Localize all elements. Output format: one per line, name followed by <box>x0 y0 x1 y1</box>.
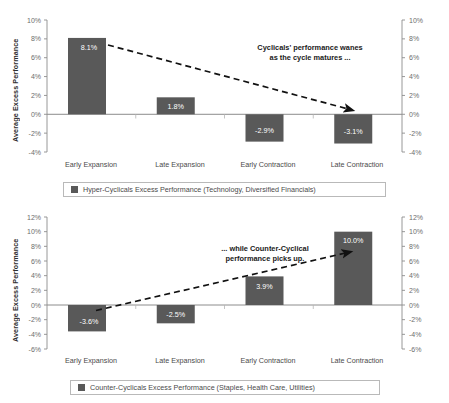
legend-top: Hyper-Cyclicals Excess Performance (Tech… <box>63 182 386 197</box>
svg-text:8%: 8% <box>409 243 419 250</box>
svg-text:4%: 4% <box>409 73 419 80</box>
category-ticks-top <box>136 114 314 118</box>
right-axis-spine-top <box>402 20 405 152</box>
figure-root: Average Excess Performance <box>0 0 449 403</box>
bar-label-2: -2.9% <box>255 126 274 135</box>
annotation-line-2: performance picks up. <box>226 254 305 263</box>
svg-text:-6%: -6% <box>409 346 421 353</box>
svg-text:12%: 12% <box>27 214 41 221</box>
svg-text:-2%: -2% <box>29 130 41 137</box>
bar-label-3: -3.1% <box>344 127 363 136</box>
plot-area-bottom: 12% 10% 8% 6% 4% 2% 0% -2% -4% -6% <box>0 200 449 378</box>
bar-label-3: 10.0% <box>343 236 364 245</box>
svg-text:0%: 0% <box>31 111 41 118</box>
svg-text:10%: 10% <box>27 17 41 24</box>
svg-text:-2%: -2% <box>409 130 421 137</box>
svg-text:0%: 0% <box>409 302 419 309</box>
left-tick-labels-top: 10% 8% 6% 4% 2% 0% -2% -4% <box>27 17 41 156</box>
left-tick-labels-bottom: 12% 10% 8% 6% 4% 2% 0% -2% -4% -6% <box>27 214 41 353</box>
svg-text:4%: 4% <box>31 73 41 80</box>
right-tick-labels-top: 10% 8% 6% 4% 2% 0% -2% -4% <box>409 17 423 156</box>
category-label-0: Early Expansion <box>65 160 117 169</box>
legend-swatch-icon-bottom <box>78 384 85 391</box>
bar-label-0: -3.6% <box>80 317 99 326</box>
category-label-3: Late Contraction <box>331 160 384 169</box>
chart-panel-counter-cyclicals: Average Excess Performance 12% 10% 8% 6%… <box>0 200 449 403</box>
svg-text:-4%: -4% <box>409 149 421 156</box>
svg-text:6%: 6% <box>31 54 41 61</box>
bar-label-0: 8.1% <box>81 43 98 52</box>
bar-label-1: 1.8% <box>168 102 185 111</box>
svg-text:2%: 2% <box>409 92 419 99</box>
svg-text:12%: 12% <box>409 214 423 221</box>
svg-text:6%: 6% <box>409 54 419 61</box>
svg-text:6%: 6% <box>409 258 419 265</box>
svg-text:-4%: -4% <box>409 331 421 338</box>
svg-text:10%: 10% <box>27 228 41 235</box>
svg-text:2%: 2% <box>409 287 419 294</box>
category-label-0: Early Expansion <box>65 356 117 365</box>
svg-text:-4%: -4% <box>29 331 41 338</box>
category-labels-bottom: Early Expansion Late Expansion Early Con… <box>65 356 383 365</box>
svg-text:-2%: -2% <box>29 316 41 323</box>
svg-text:8%: 8% <box>31 35 41 42</box>
left-axis-spine-bottom <box>44 217 47 349</box>
trend-arrow-bottom <box>96 252 350 311</box>
svg-text:10%: 10% <box>409 228 423 235</box>
plot-area-top: 10% 8% 6% 4% 2% 0% -2% -4% 10% <box>0 0 449 180</box>
legend-label-bottom: Counter-Cyclicals Excess Performance (St… <box>90 384 315 391</box>
svg-text:8%: 8% <box>409 35 419 42</box>
svg-text:-4%: -4% <box>29 149 41 156</box>
legend-label-top: Hyper-Cyclicals Excess Performance (Tech… <box>83 186 316 193</box>
right-axis-spine-bottom <box>402 217 405 349</box>
svg-text:-6%: -6% <box>29 346 41 353</box>
bar-series-bottom <box>68 232 372 332</box>
svg-text:-2%: -2% <box>409 316 421 323</box>
svg-text:4%: 4% <box>409 272 419 279</box>
svg-text:2%: 2% <box>31 287 41 294</box>
category-label-2: Early Contraction <box>240 160 295 169</box>
annotation-line-1: Cyclicals' performance wanes <box>257 43 362 52</box>
left-axis-spine-top <box>44 20 47 152</box>
bar-label-2: 3.9% <box>256 282 273 291</box>
annotation-top: Cyclicals' performance wanes as the cycl… <box>257 43 362 62</box>
svg-text:6%: 6% <box>31 258 41 265</box>
right-tick-labels-bottom: 12% 10% 8% 6% 4% 2% 0% -2% -4% -6% <box>409 214 423 353</box>
svg-text:8%: 8% <box>31 243 41 250</box>
annotation-line-2: as the cycle matures ... <box>270 53 351 62</box>
svg-text:0%: 0% <box>31 302 41 309</box>
annotation-line-1: ... while Counter-Cyclical <box>221 244 308 253</box>
svg-text:10%: 10% <box>409 17 423 24</box>
category-label-3: Late Contraction <box>331 356 384 365</box>
category-labels-top: Early Expansion Late Expansion Early Con… <box>65 160 383 169</box>
legend-bottom: Counter-Cyclicals Excess Performance (St… <box>70 380 380 395</box>
annotation-bottom: ... while Counter-Cyclical performance p… <box>221 244 308 263</box>
chart-panel-hyper-cyclicals: Average Excess Performance <box>0 0 449 205</box>
svg-text:2%: 2% <box>31 92 41 99</box>
bar-label-1: -2.5% <box>166 310 185 319</box>
category-label-1: Late Expansion <box>155 356 205 365</box>
category-label-2: Early Contraction <box>240 356 295 365</box>
svg-text:0%: 0% <box>409 111 419 118</box>
category-label-1: Late Expansion <box>155 160 205 169</box>
svg-text:4%: 4% <box>31 272 41 279</box>
legend-swatch-icon-top <box>71 186 78 193</box>
